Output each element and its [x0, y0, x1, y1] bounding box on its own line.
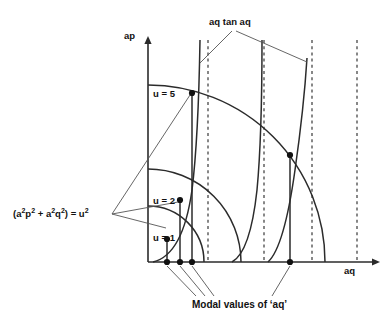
- diagram-canvas: [0, 0, 385, 322]
- tan-branch-2: [232, 40, 262, 262]
- circle-equation-label: (a2p2 + a2q2) = u2: [13, 207, 89, 220]
- modal-dot-4: [287, 259, 293, 265]
- intersection-dot-u5-branch2: [287, 152, 293, 158]
- tan-curve-label: aq tan aq: [209, 17, 251, 27]
- y-axis-arrowhead: [144, 36, 151, 44]
- equation-label-leader-group: [112, 95, 190, 228]
- tan-label-leader-left: [200, 31, 232, 63]
- tan-label-leader-right: [236, 31, 307, 62]
- caption-leader-4: [272, 266, 290, 296]
- modal-values-diagram: ap aq aq tan aq u = 5 u = 2 u = 1 (a2p2 …: [0, 0, 385, 322]
- caption-leader-3: [192, 266, 214, 296]
- modal-dot-1: [164, 259, 170, 265]
- x-axis-label: aq: [344, 266, 355, 276]
- tan-branch-3: [268, 58, 307, 262]
- caption-leader-1: [167, 266, 196, 296]
- circle-arc-u2: [148, 169, 241, 262]
- arc-label-u1: u = 1: [153, 233, 175, 243]
- tan-branch-group: [153, 40, 307, 262]
- asymptote-group: [208, 40, 357, 262]
- equation-leader-u5: [112, 95, 190, 214]
- modal-dot-2: [177, 259, 183, 265]
- caption-leader-2: [180, 266, 205, 296]
- y-axis-label: ap: [124, 31, 135, 41]
- x-axis-arrowhead: [372, 258, 380, 265]
- arc-label-u2: u = 2: [153, 196, 175, 206]
- arc-label-u5: u = 5: [153, 89, 175, 99]
- tan-label-leader-group: [200, 31, 307, 63]
- caption-leader-group: [167, 266, 290, 296]
- equation-leader-u1: [112, 214, 166, 228]
- modal-values-caption: Modal values of ‘aq’: [192, 299, 287, 310]
- modal-dot-3: [189, 259, 195, 265]
